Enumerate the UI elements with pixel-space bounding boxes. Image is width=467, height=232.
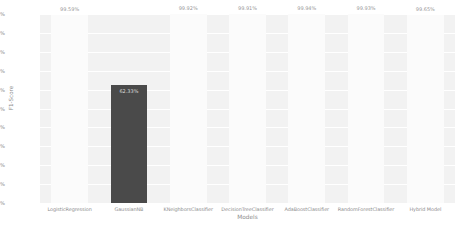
bar-value-label: 99.59% bbox=[60, 6, 79, 12]
y-axis-tick-label: 30% bbox=[0, 143, 5, 149]
y-axis-tick-label: 10% bbox=[0, 181, 5, 187]
bar-chart: 99.59%62.33%99.92%99.91%99.94%99.93%99.6… bbox=[0, 0, 467, 232]
y-axis-tick-label: 0% bbox=[0, 200, 5, 206]
y-axis-tick-label: 50% bbox=[0, 106, 5, 112]
y-axis-tick-label: 90% bbox=[0, 30, 5, 36]
y-axis-tick-label: 100% bbox=[0, 11, 5, 17]
x-axis-tick-label: AdaBoostClassifier bbox=[277, 204, 336, 214]
x-axis-tick-label: GaussianNB bbox=[99, 204, 158, 214]
bar: 99.65% bbox=[407, 15, 444, 203]
y-axis-tick-label: 70% bbox=[0, 68, 5, 74]
bar: 99.93% bbox=[348, 14, 385, 203]
x-axis-ticks: LogisticRegressionGaussianNBKNeighborsCl… bbox=[40, 204, 455, 214]
x-axis-tick-label: DecisionTreeClassifier bbox=[218, 204, 277, 214]
bar-slot: 62.33% bbox=[99, 14, 158, 203]
bar-slot: 99.94% bbox=[277, 14, 336, 203]
x-axis-label: Models bbox=[40, 214, 455, 220]
y-axis-tick-label: 40% bbox=[0, 124, 5, 130]
bar-slot: 99.93% bbox=[336, 14, 395, 203]
x-axis-tick-label: LogisticRegression bbox=[40, 204, 99, 214]
bar-value-label: 99.65% bbox=[416, 6, 435, 12]
bar-slot: 99.92% bbox=[159, 14, 218, 203]
bar-value-label: 99.91% bbox=[238, 5, 257, 11]
y-axis-label: F1-Score bbox=[8, 86, 14, 110]
bar-value-label: 99.93% bbox=[357, 5, 376, 11]
bar: 62.33% bbox=[111, 85, 148, 203]
x-axis-tick-label: KNeighborsClassifier bbox=[159, 204, 218, 214]
plot-area: 99.59%62.33%99.92%99.91%99.94%99.93%99.6… bbox=[40, 14, 455, 203]
bar: 99.59% bbox=[51, 15, 88, 203]
bar: 99.91% bbox=[229, 14, 266, 203]
bar-value-label: 62.33% bbox=[119, 88, 138, 94]
y-axis-tick-label: 80% bbox=[0, 49, 5, 55]
x-axis-tick-label: RandomForestClassifier bbox=[336, 204, 395, 214]
bar-slot: 99.65% bbox=[396, 14, 455, 203]
y-axis-tick-label: 20% bbox=[0, 162, 5, 168]
bar: 99.94% bbox=[288, 14, 325, 203]
y-axis-tick-label: 60% bbox=[0, 87, 5, 93]
bar-value-label: 99.92% bbox=[179, 5, 198, 11]
x-axis-tick-label: Hybrid Model bbox=[396, 204, 455, 214]
bar-slot: 99.91% bbox=[218, 14, 277, 203]
bar-slot: 99.59% bbox=[40, 14, 99, 203]
bar-series: 99.59%62.33%99.92%99.91%99.94%99.93%99.6… bbox=[40, 14, 455, 203]
bar-value-label: 99.94% bbox=[297, 5, 316, 11]
bar: 99.92% bbox=[170, 14, 207, 203]
